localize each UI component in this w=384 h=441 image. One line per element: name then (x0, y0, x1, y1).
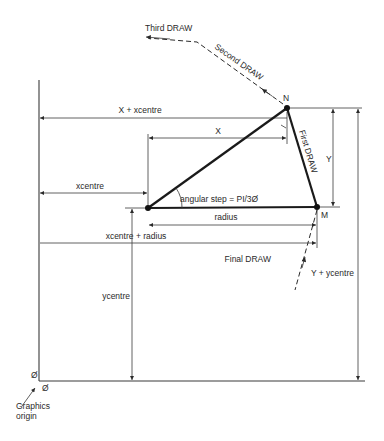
dim-x-plus-xcentre-label: X + xcentre (118, 105, 162, 115)
second-draw-arrow (262, 89, 272, 96)
point-m (314, 204, 320, 210)
axes (39, 80, 365, 381)
origin-label-line2: origin (16, 411, 37, 421)
circle-drawing-diagram: Third DRAW Second DRAW First DRAW Final … (0, 0, 384, 441)
final-draw-path (295, 210, 317, 290)
dim-xcentre-plus-radius-label: xcentre + radius (106, 231, 167, 241)
extension-lines (125, 108, 362, 248)
hypotenuse-line (148, 108, 287, 208)
labels: Third DRAW Second DRAW First DRAW Final … (16, 23, 354, 421)
dim-y-plus-ycentre-label: Y + ycentre (311, 268, 354, 278)
origin-label-line1: Graphics (16, 401, 50, 411)
diagram-canvas: Third DRAW Second DRAW First DRAW Final … (0, 0, 384, 441)
origin-y-zero-label: Ø (31, 370, 38, 380)
origin-x-zero-label: Ø (42, 383, 49, 393)
dim-ycentre-label: ycentre (102, 291, 130, 301)
third-draw-label: Third DRAW (145, 23, 192, 33)
draw-paths (146, 37, 317, 290)
point-n-label: N (283, 93, 289, 103)
point-m-label: M (321, 210, 328, 220)
n-tick (281, 125, 286, 128)
final-draw-label: Final DRAW (225, 254, 271, 264)
centre-point (145, 205, 151, 211)
dim-y-label: Y (326, 154, 332, 164)
point-n (284, 105, 290, 111)
dim-x-label: X (215, 126, 221, 136)
dim-radius-label: radius (214, 212, 237, 222)
dim-xcentre-label: xcentre (76, 181, 104, 191)
radius-line (148, 207, 317, 208)
second-draw-label: Second DRAW (213, 41, 265, 82)
angle-label: angular step = PI/3Ø (180, 194, 259, 204)
